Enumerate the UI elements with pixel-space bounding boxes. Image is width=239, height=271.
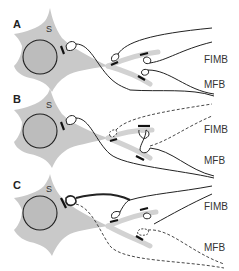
axon-fimb-thick-c	[76, 194, 130, 200]
axon-fimb-c-2	[120, 200, 130, 212]
bouton-dendrite-a2	[143, 57, 150, 64]
tract-label-mfb-c: MFB	[204, 242, 225, 253]
panel-b: B S FIMB MFB	[13, 88, 228, 178]
panel-letter-b: B	[13, 93, 21, 105]
bouton-dendrite-c1	[111, 211, 120, 218]
soma-label-a: S	[46, 24, 52, 34]
axon-fimb-c-1	[130, 186, 212, 200]
tract-label-fimb-a: FIMB	[204, 54, 228, 65]
bouton-soma-b	[66, 116, 76, 125]
nucleus-a	[23, 40, 57, 74]
tract-label-mfb-a: MFB	[204, 79, 225, 90]
soma-label-b: S	[46, 100, 52, 110]
bouton-degenerating-c	[138, 229, 149, 235]
bouton-soma-c	[66, 196, 76, 205]
nucleus-c	[23, 196, 57, 230]
axon-fimb-a1	[118, 28, 212, 54]
panel-letter-a: A	[13, 18, 21, 30]
tract-label-fimb-b: FIMB	[204, 124, 228, 135]
synapse-sprout-lower-b	[136, 156, 144, 160]
panel-a: A S FIMB MFB	[13, 8, 228, 96]
panel-c: C S FIMB MFB	[13, 174, 228, 268]
tract-label-mfb-b: MFB	[204, 155, 225, 166]
axon-fimb-degenerating-b2	[150, 116, 212, 146]
bouton-soma-a	[66, 42, 76, 51]
tract-label-fimb-c: FIMB	[204, 201, 228, 212]
soma-label-c: S	[46, 184, 52, 194]
axon-fimb-degenerating-b1	[116, 104, 212, 130]
synapse-dendrite-c2	[140, 208, 148, 210]
bouton-dendrite-c2	[143, 213, 150, 219]
bouton-dendrite-a3	[141, 69, 148, 75]
nucleus-b	[23, 114, 57, 148]
bouton-sprout-b	[139, 130, 150, 153]
synaptic-reorganization-diagram: A S FIMB MFB B S	[0, 0, 239, 271]
panel-letter-c: C	[13, 179, 21, 191]
